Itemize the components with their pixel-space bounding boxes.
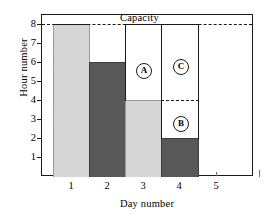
bar-chart-figure: Hour number 8 7 6 5 4 3 2 1 Capacit (0, 0, 270, 219)
x-tick-label-4: 4 (167, 180, 191, 191)
y-tick-label-7: 7 (20, 38, 36, 48)
y-tick-label-4: 4 (20, 95, 36, 105)
bar-day-1 (53, 24, 90, 177)
x-axis-title: Day number (41, 198, 253, 209)
y-tick-label-5: 5 (20, 76, 36, 86)
annotation-marker-c: C (173, 59, 189, 75)
y-tick-label-6: 6 (20, 57, 36, 67)
x-tick-label-1: 1 (59, 180, 83, 191)
plot-area: Capacity A C B (41, 14, 253, 176)
outer-right-tick (259, 170, 260, 177)
y-tick-label-3: 3 (20, 114, 36, 124)
bar-day-2 (89, 62, 126, 177)
x-tick-label-5: 5 (204, 180, 228, 191)
annotation-marker-a: A (136, 63, 152, 79)
x-tick-label-3: 3 (131, 180, 155, 191)
y-tick-label-1: 1 (20, 152, 36, 162)
x-tick-label-2: 2 (95, 180, 119, 191)
y-tick-label-2: 2 (20, 133, 36, 143)
x-tick-mark-5 (216, 172, 217, 176)
capacity-line-dashed (42, 24, 252, 25)
bar-day-4 (161, 138, 199, 177)
level-line-hour-4 (161, 100, 199, 101)
annotation-marker-b: B (173, 116, 189, 132)
y-tick-label-8: 8 (20, 19, 36, 29)
bar-day-3 (125, 100, 162, 177)
capacity-label: Capacity (120, 12, 159, 23)
